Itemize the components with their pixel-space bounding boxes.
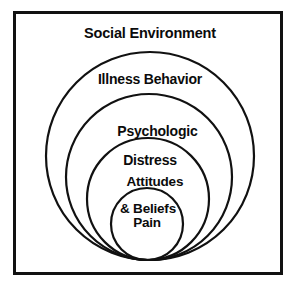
label-illness-behavior: Illness Behavior (98, 72, 202, 86)
label-social-environment: Social Environment (84, 26, 216, 41)
diagram-root: Social Environment Illness Behavior Psyc… (0, 0, 297, 284)
label-psychologic-distress-line1: Psychologic (117, 123, 197, 139)
label-attitudes-beliefs: Attitudes & Beliefs (113, 161, 183, 244)
label-attitudes-beliefs-line2: & Beliefs (113, 202, 183, 216)
label-attitudes-beliefs-line1: Attitudes (127, 174, 184, 189)
label-pain: Pain (133, 216, 161, 230)
